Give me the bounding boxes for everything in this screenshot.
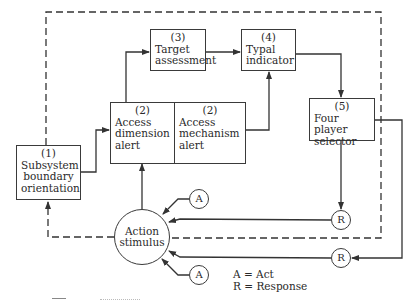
node-label-line: orientation [21,183,76,195]
node-label-line: indicator [246,55,291,67]
node-number: (2) [115,105,170,117]
node-access-mechanism-alert: (2) Access mechanism alert [174,102,246,164]
marker-response-bottom: R [331,248,351,268]
marker-label: A [195,269,202,281]
dashed-stimulus-to-subsystem [48,202,114,237]
legend-response: R = Response [233,280,307,292]
node-access-dimension-alert: (2) Access dimension alert [110,102,175,164]
marker-label: A [195,193,202,205]
caption-fragment [100,299,140,303]
legend: A = Act R = Response [233,268,307,292]
edge-a-top-to-stimulus [163,199,189,214]
node-number: (2) [179,105,241,117]
marker-act-bottom: A [189,265,209,285]
legend-act: A = Act [233,268,307,280]
node-number: (4) [246,32,291,44]
node-label-line: assessment [155,55,201,67]
edge-a-bottom-to-stimulus [162,259,189,275]
node-typal-indicator: (4) Typal indicator [241,29,296,71]
node-label-line: mechanism [179,128,241,140]
node-subsystem-boundary-orientation: (1) Subsystem boundary orientation [16,145,81,200]
edge-r-top-to-stimulus [169,219,331,222]
edge-access-dimension-to-target [126,52,149,102]
marker-response-top: R [331,210,351,230]
node-action-stimulus: Action stimulus [114,209,170,265]
node-four-player-selector: (5) Four player selector [309,98,375,141]
edge-r-bottom-to-stimulus [169,251,331,258]
node-number: (3) [155,32,201,44]
edge-subsystem-to-access-dimension [80,130,109,172]
node-number: (5) [314,101,370,113]
node-label-line: stimulus [119,237,164,249]
edge-access-mechanism-to-typal [245,72,269,130]
node-target-assessment: (3) Target assessment [150,29,206,71]
node-label-line: dimension [115,128,170,140]
node-label-line: boundary [21,171,76,183]
caption-fragment [52,298,66,303]
node-label-line: alert [115,140,170,152]
node-label-line: alert [179,140,241,152]
node-label-line: Four player [314,113,370,136]
node-number: (1) [21,148,76,160]
edge-typal-to-selector [295,54,341,97]
marker-act-top: A [189,189,209,209]
marker-label: R [337,214,345,226]
marker-label: R [337,252,345,264]
node-label-line: selector [314,136,370,148]
